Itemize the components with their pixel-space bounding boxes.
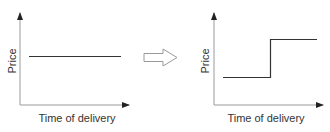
right-chart [214,13,323,105]
left-y-axis-label: Price [6,48,18,73]
right-y-axis-label: Price [199,48,211,73]
right-step-price-line [223,40,317,78]
hollow-right-arrow-icon [144,49,177,66]
left-chart [20,13,129,105]
left-x-axis-label: Time of delivery [38,112,115,124]
right-x-axis-label: Time of delivery [227,112,304,124]
